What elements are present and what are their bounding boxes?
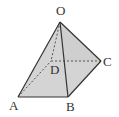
- label-c: C: [103, 54, 112, 69]
- label-a: A: [9, 98, 19, 113]
- label-o: O: [56, 3, 65, 18]
- label-b: B: [66, 99, 75, 114]
- pyramid-diagram: O A B C D: [0, 0, 119, 117]
- label-d: D: [50, 62, 59, 77]
